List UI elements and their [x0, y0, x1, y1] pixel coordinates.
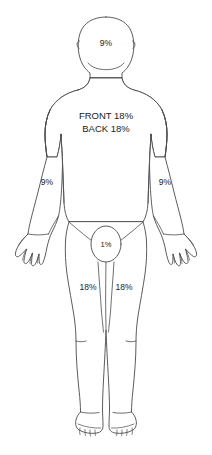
head-outline: [78, 17, 134, 82]
torso-front-percentage-label: FRONT 18%: [79, 110, 134, 121]
right-arm-percentage-label: 9%: [159, 177, 172, 187]
body-outline-svg: 9% FRONT 18% BACK 18% 9% 9% 1% 18% 18%: [0, 0, 212, 455]
torso-outline: [45, 78, 167, 222]
left-leg-percentage-label: 18%: [79, 282, 96, 292]
left-arm-percentage-label: 9%: [41, 177, 54, 187]
head-percentage-label: 9%: [100, 38, 113, 48]
rule-of-nines-diagram: 9% FRONT 18% BACK 18% 9% 9% 1% 18% 18%: [0, 0, 212, 455]
groin-percentage-label: 1%: [101, 240, 112, 249]
right-leg-percentage-label: 18%: [115, 282, 132, 292]
torso-back-percentage-label: BACK 18%: [82, 123, 130, 134]
